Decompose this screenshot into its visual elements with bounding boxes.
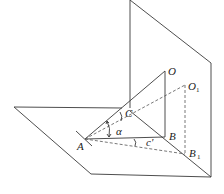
segment-AO — [85, 71, 165, 139]
label-alpha: α — [116, 125, 122, 137]
diagram-canvas: O O 1 B B 1 A C α c' — [0, 0, 224, 194]
intersection-line — [76, 111, 211, 177]
label-O1-sub: 1 — [196, 86, 200, 94]
labels: O O 1 B B 1 A C α c' — [76, 65, 201, 161]
label-B: B — [169, 130, 176, 142]
horizontal-plane — [14, 107, 211, 177]
label-O: O — [168, 65, 176, 77]
label-B1: B — [189, 147, 196, 159]
label-C: C — [125, 107, 133, 119]
geometry-figure: O O 1 B B 1 A C α c' — [0, 0, 224, 194]
angle-cprime-arc — [134, 139, 136, 146]
label-c-prime: c' — [146, 136, 154, 148]
label-O1: O — [188, 80, 196, 92]
label-A: A — [76, 140, 84, 152]
label-B1-sub: 1 — [197, 153, 201, 161]
